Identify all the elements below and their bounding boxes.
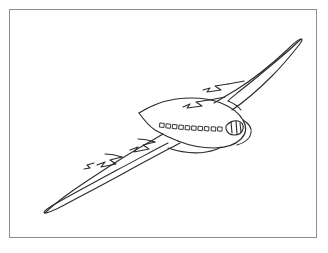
caption-text (0, 240, 1, 241)
passenger-window (185, 126, 190, 131)
right-engine-far-outline (203, 84, 228, 92)
passenger-window (205, 127, 210, 132)
cockpit-window-divider-2 (236, 121, 237, 134)
passenger-window (192, 126, 197, 131)
passenger-window (166, 124, 171, 129)
left-wing-leading-edge (45, 134, 163, 213)
passenger-window-row (160, 123, 223, 131)
right-engine-far-pylon (228, 81, 244, 84)
cockpit-window-divider-3 (240, 123, 241, 132)
passenger-window (211, 127, 216, 132)
left-wing-outboard-notch (84, 163, 94, 169)
passenger-window (160, 123, 165, 128)
right-wing-trailing-edge (228, 39, 301, 110)
caption-strip (0, 240, 328, 253)
left-engine-far-pylon (105, 154, 122, 157)
left-engine-far-outline (97, 157, 122, 167)
right-engine-near-outline (183, 100, 209, 108)
passenger-window (198, 126, 203, 131)
left-wing-outline (44, 143, 180, 213)
figure-root: Airplane Line Drawing airplane (0, 0, 328, 253)
cockpit-window-divider-1 (231, 122, 232, 133)
airplane-illustration (44, 39, 302, 213)
passenger-window (218, 127, 223, 132)
airplane-drawing (0, 0, 328, 253)
passenger-window (173, 124, 178, 129)
passenger-window (179, 125, 184, 130)
